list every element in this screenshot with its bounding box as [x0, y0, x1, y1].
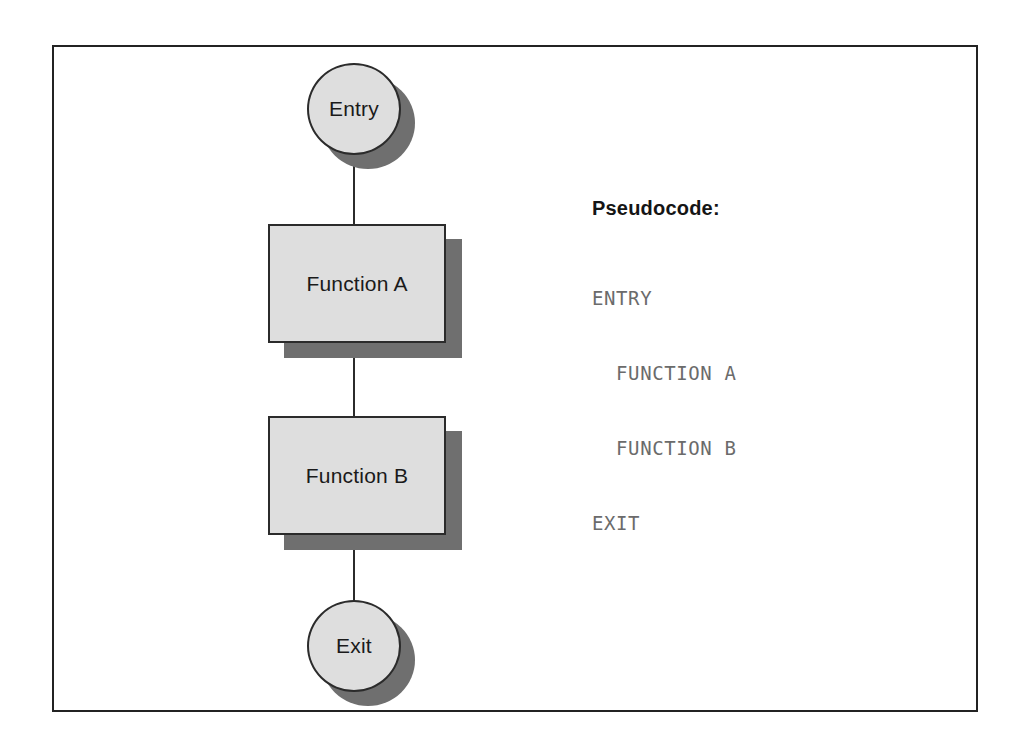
node-function-a[interactable]: Function A — [268, 224, 464, 360]
pseudocode-heading: Pseudocode: — [592, 197, 892, 220]
node-function-a-label: Function A — [306, 272, 407, 296]
node-entry[interactable]: Entry — [307, 63, 417, 171]
node-exit-label: Exit — [336, 634, 372, 658]
pseudocode-line: FUNCTION A — [592, 361, 892, 386]
pseudocode-listing: ENTRY FUNCTION A FUNCTION B EXIT — [592, 236, 892, 586]
node-entry-body: Entry — [307, 63, 401, 155]
node-function-b[interactable]: Function B — [268, 416, 464, 552]
pseudocode-line: ENTRY — [592, 286, 892, 311]
node-function-b-body: Function B — [268, 416, 446, 535]
node-exit-body: Exit — [307, 600, 401, 692]
pseudocode-line: FUNCTION B — [592, 436, 892, 461]
node-function-a-body: Function A — [268, 224, 446, 343]
pseudocode-panel: Pseudocode: ENTRY FUNCTION A FUNCTION B … — [592, 197, 892, 586]
pseudocode-line: EXIT — [592, 511, 892, 536]
node-entry-label: Entry — [329, 97, 379, 121]
node-exit[interactable]: Exit — [307, 600, 417, 708]
diagram-canvas: Entry Function A Function B Exit Pseud — [0, 0, 1020, 738]
node-function-b-label: Function B — [306, 464, 408, 488]
